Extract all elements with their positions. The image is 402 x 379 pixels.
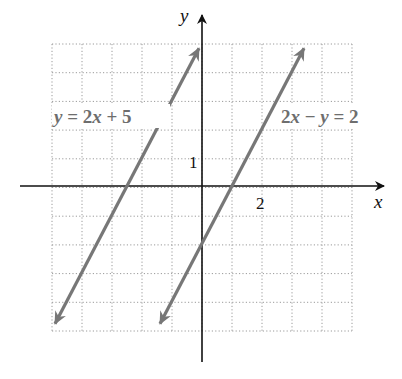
eq1-text-2: + 5 bbox=[102, 106, 132, 127]
eq2-text: = 2 bbox=[329, 106, 359, 127]
eq1-var-x: x bbox=[91, 106, 102, 127]
equation-label-line-1: y = 2x + 5 bbox=[52, 106, 132, 127]
equation-label-line-2: 2x − y = 2 bbox=[281, 106, 359, 127]
coordinate-plane: y x 1 2 y = 2x + 5 2x − y = 2 bbox=[0, 0, 402, 379]
x-tick-label-2: 2 bbox=[256, 194, 265, 213]
eq1-var-y: y bbox=[52, 106, 63, 127]
y-tick-label-1: 1 bbox=[189, 153, 198, 172]
eq2-minus: − bbox=[300, 106, 320, 127]
eq1-text: = 2 bbox=[62, 106, 92, 127]
x-axis-label: x bbox=[373, 191, 383, 212]
eq2-var-y: y bbox=[318, 106, 329, 127]
y-axis-label: y bbox=[178, 5, 189, 26]
eq2-coef: 2 bbox=[281, 106, 291, 127]
eq2-var-x: x bbox=[290, 106, 301, 127]
